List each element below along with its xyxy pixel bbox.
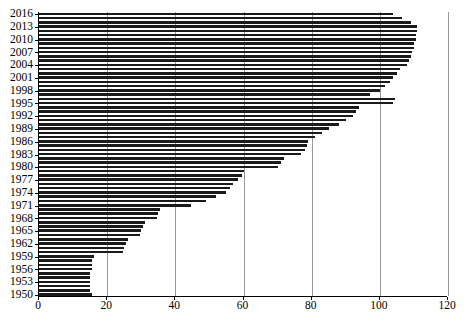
y-tick-label-1959: 1959	[10, 251, 33, 263]
bar-row	[39, 101, 448, 105]
y-tick-2004	[35, 65, 38, 66]
bar-1961	[39, 247, 124, 250]
bar-1964	[39, 234, 140, 237]
y-tick-label-1962: 1962	[10, 238, 33, 250]
bar-1967	[39, 221, 145, 224]
x-tick-100	[379, 297, 380, 300]
y-tick-1959	[35, 257, 38, 258]
bar-2009	[39, 42, 414, 45]
bar-1958	[39, 259, 92, 262]
y-tick-1965	[35, 231, 38, 232]
bar-1969	[39, 212, 158, 215]
bar-row	[39, 84, 448, 88]
bar-1956	[39, 268, 92, 271]
bar-1982	[39, 157, 284, 160]
bar-row	[39, 12, 448, 16]
y-tick-label-2004: 2004	[10, 59, 33, 71]
bar-row	[39, 76, 448, 80]
bar-row	[39, 21, 448, 25]
bar-row	[39, 237, 448, 241]
y-tick-1986	[35, 142, 38, 143]
y-tick-label-1980: 1980	[10, 161, 33, 173]
bar-row	[39, 199, 448, 203]
x-tick-label-100: 100	[370, 299, 387, 311]
bar-row	[39, 106, 448, 110]
bar-row	[39, 254, 448, 258]
bar-row	[39, 29, 448, 33]
bar-row	[39, 89, 448, 93]
y-tick-1995	[35, 103, 38, 104]
y-tick-1977	[35, 180, 38, 181]
bar-1989	[39, 127, 329, 130]
x-tick-0	[38, 297, 39, 300]
bar-1960	[39, 251, 123, 254]
bar-2002	[39, 72, 397, 75]
y-tick-label-1995: 1995	[10, 98, 33, 110]
bar-2015	[39, 17, 402, 20]
bar-row	[39, 140, 448, 144]
chart-figure: 2016201320102007200420011998199519921989…	[0, 0, 473, 323]
bar-row	[39, 42, 448, 46]
bar-row	[39, 271, 448, 275]
bar-row	[39, 267, 448, 271]
y-tick-label-1953: 1953	[10, 276, 33, 288]
bar-row	[39, 118, 448, 122]
y-tick-label-1971: 1971	[10, 200, 33, 212]
y-tick-1992	[35, 116, 38, 117]
x-tick-label-120: 120	[438, 299, 455, 311]
bar-2016	[39, 13, 393, 16]
bar-row	[39, 216, 448, 220]
y-tick-label-2010: 2010	[10, 34, 33, 46]
y-tick-1956	[35, 269, 38, 270]
bar-row	[39, 174, 448, 178]
bar-row	[39, 135, 448, 139]
bar-row	[39, 123, 448, 127]
bar-row	[39, 16, 448, 20]
bar-1988	[39, 132, 322, 135]
bar-row	[39, 152, 448, 156]
bar-1962	[39, 242, 126, 245]
bar-row	[39, 93, 448, 97]
bar-1966	[39, 225, 143, 228]
y-tick-label-2016: 2016	[10, 8, 33, 20]
bar-row	[39, 229, 448, 233]
bar-row	[39, 63, 448, 67]
bar-row	[39, 250, 448, 254]
bar-row	[39, 169, 448, 173]
y-tick-1980	[35, 167, 38, 168]
bar-1973	[39, 195, 216, 198]
y-tick-1974	[35, 193, 38, 194]
y-tick-2013	[35, 27, 38, 28]
bar-2006	[39, 55, 411, 58]
bar-1985	[39, 144, 307, 147]
bar-1954	[39, 276, 90, 279]
y-axis-labels: 2016201320102007200420011998199519921989…	[0, 12, 36, 297]
y-tick-2016	[35, 14, 38, 15]
bar-1993	[39, 110, 356, 113]
bar-row	[39, 191, 448, 195]
bar-1992	[39, 115, 353, 118]
bar-1965	[39, 229, 141, 232]
y-tick-label-1977: 1977	[10, 174, 33, 186]
bar-row	[39, 157, 448, 161]
bar-1996	[39, 98, 395, 101]
bar-1981	[39, 161, 281, 164]
bar-1951	[39, 289, 90, 292]
bar-2012	[39, 30, 417, 33]
x-tick-label-20: 20	[100, 299, 112, 311]
bar-1970	[39, 208, 160, 211]
bar-row	[39, 127, 448, 131]
plot-area	[38, 12, 447, 297]
bar-row	[39, 38, 448, 42]
bar-1971	[39, 204, 191, 207]
bar-1952	[39, 285, 90, 288]
gridline-120	[448, 12, 449, 296]
bar-row	[39, 259, 448, 263]
y-tick-label-2007: 2007	[10, 47, 33, 59]
bar-1995	[39, 102, 393, 105]
y-tick-label-1983: 1983	[10, 149, 33, 161]
bar-row	[39, 203, 448, 207]
y-tick-1983	[35, 155, 38, 156]
bar-row	[39, 33, 448, 37]
bar-1983	[39, 153, 301, 156]
